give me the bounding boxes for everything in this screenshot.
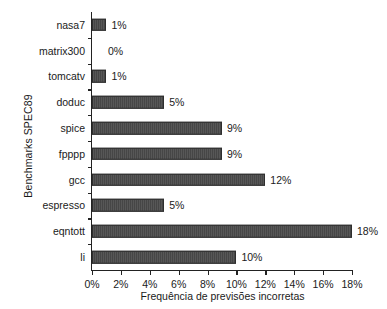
x-axis-title: Frequência de previsões incorretas — [92, 290, 353, 302]
bar-value-label: 1% — [111, 19, 126, 31]
bar-row: spice9% — [92, 115, 352, 141]
category-label: espresso — [42, 199, 85, 211]
bar-value-label: 1% — [111, 70, 126, 82]
bar-row: li10% — [92, 244, 352, 270]
bar-row: nasa71% — [92, 12, 352, 38]
x-axis-tick — [179, 270, 180, 275]
bar-value-label: 5% — [169, 199, 184, 211]
bar — [92, 70, 106, 83]
category-label: spice — [60, 122, 85, 134]
x-axis-tick-label: 8% — [200, 278, 215, 290]
bar — [92, 19, 106, 32]
bar-row: espresso5% — [92, 193, 352, 219]
bar-chart: Benchmarks SPEC89 nasa71%matrix3000%tomc… — [0, 0, 387, 309]
x-axis-tick — [92, 270, 93, 275]
bar-row: eqntott18% — [92, 218, 352, 244]
x-axis-tick-label: 2% — [113, 278, 128, 290]
bar — [92, 251, 236, 264]
x-axis-tick-label: 4% — [142, 278, 157, 290]
bar-row: doduc5% — [92, 89, 352, 115]
x-axis-tick — [150, 270, 151, 275]
category-label: eqntott — [53, 225, 85, 237]
x-axis-tick-label: 16% — [313, 278, 334, 290]
bar-row: fpppp9% — [92, 141, 352, 167]
bar-row: tomcatv1% — [92, 64, 352, 90]
bar-row: matrix3000% — [92, 38, 352, 64]
plot-area: nasa71%matrix3000%tomcatv1%doduc5%spice9… — [92, 12, 352, 270]
category-label: matrix300 — [39, 45, 85, 57]
x-axis-tick-label: 12% — [255, 278, 276, 290]
bar — [92, 225, 352, 238]
x-axis-tick-label: 14% — [284, 278, 305, 290]
bar-value-label: 10% — [241, 251, 262, 263]
bar — [92, 122, 222, 135]
bar — [92, 96, 164, 109]
x-axis-tick — [208, 270, 209, 275]
x-axis-tick — [323, 270, 324, 275]
x-axis-tick — [294, 270, 295, 275]
bar-value-label: 9% — [227, 122, 242, 134]
x-axis-tick-label: 0% — [84, 278, 99, 290]
x-axis-tick-label: 10% — [226, 278, 247, 290]
bar-value-label: 18% — [357, 225, 378, 237]
category-label: tomcatv — [48, 70, 85, 82]
bar — [92, 148, 222, 161]
category-label: fpppp — [59, 148, 85, 160]
bar-value-label: 9% — [227, 148, 242, 160]
category-label: li — [80, 251, 85, 263]
bar-value-label: 0% — [108, 45, 123, 57]
x-axis-tick — [352, 270, 353, 275]
x-axis-line — [92, 270, 353, 271]
category-label: gcc — [69, 174, 85, 186]
category-label: doduc — [56, 96, 85, 108]
bar-row: gcc12% — [92, 167, 352, 193]
bar — [92, 173, 265, 186]
x-axis-tick-label: 6% — [171, 278, 186, 290]
x-axis-tick-label: 18% — [341, 278, 362, 290]
bar-value-label: 12% — [270, 174, 291, 186]
category-label: nasa7 — [56, 19, 85, 31]
x-axis-tick — [265, 270, 266, 275]
x-axis-tick — [236, 270, 237, 275]
bar — [92, 199, 164, 212]
y-axis-title: Benchmarks SPEC89 — [22, 46, 34, 246]
x-axis-tick — [121, 270, 122, 275]
bar-value-label: 5% — [169, 96, 184, 108]
